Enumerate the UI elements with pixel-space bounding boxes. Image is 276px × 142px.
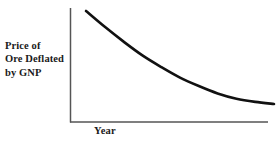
y-axis-label: Price of Ore Deflated by GNP — [5, 39, 67, 79]
y-axis-label-line-2: Ore Deflated — [5, 52, 67, 65]
chart-figure: Price of Ore Deflated by GNP Year — [0, 0, 276, 142]
x-axis-label: Year — [72, 124, 138, 137]
data-series-curve — [86, 11, 274, 104]
y-axis-label-line-3: by GNP — [5, 66, 67, 79]
y-axis-label-line-1: Price of — [5, 39, 67, 52]
